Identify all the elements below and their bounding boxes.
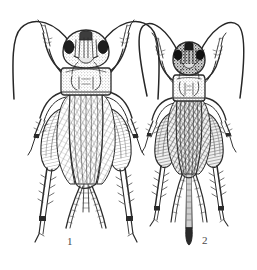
wing-icon [167,99,210,178]
eye-icon [174,50,182,60]
pronotum [61,68,111,95]
eye-icon [196,50,204,60]
wing-icon [57,94,115,189]
eye-icon [64,41,74,54]
figure-2-label: 2 [202,235,208,246]
figure-1-label: 1 [67,236,73,247]
ovipositor-icon [186,170,193,245]
illustration-plate: 1 2 [0,0,257,270]
pronotum [173,75,205,101]
eye-icon [98,41,108,54]
cricket-plate-drawing [0,0,257,270]
